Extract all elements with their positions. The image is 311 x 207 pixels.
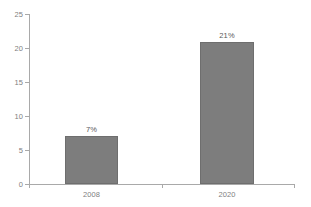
y-axis-tick-label-25: 25 — [3, 11, 23, 19]
y-axis-tick-label-20: 20 — [3, 45, 23, 53]
bar-2008[interactable] — [65, 136, 118, 184]
plot-area: 25 20 15 10 5 0 7% 2008 21% 2020 — [0, 0, 311, 207]
y-axis-tick-label-5: 5 — [3, 147, 23, 155]
bar-value-label-2020: 21% — [200, 32, 254, 40]
y-axis-tick-10 — [25, 116, 29, 117]
bar-value-label-2008: 7% — [65, 126, 118, 134]
y-axis-tick-15 — [25, 82, 29, 83]
x-axis-category-label-2020: 2020 — [200, 191, 254, 199]
x-axis-tick-start — [29, 184, 30, 188]
x-axis-tick-mid — [162, 184, 163, 188]
y-axis-tick-25 — [25, 14, 29, 15]
bar-chart: 25 20 15 10 5 0 7% 2008 21% 2020 — [0, 0, 311, 207]
y-axis-tick-label-15: 15 — [3, 79, 23, 87]
x-axis-tick-end — [294, 184, 295, 188]
bar-2020[interactable] — [200, 42, 254, 184]
y-axis-tick-20 — [25, 48, 29, 49]
x-axis-category-label-2008: 2008 — [65, 191, 118, 199]
y-axis-tick-label-10: 10 — [3, 113, 23, 121]
y-axis-line — [29, 14, 30, 185]
y-axis-tick-5 — [25, 150, 29, 151]
y-axis-tick-label-0: 0 — [3, 181, 23, 189]
